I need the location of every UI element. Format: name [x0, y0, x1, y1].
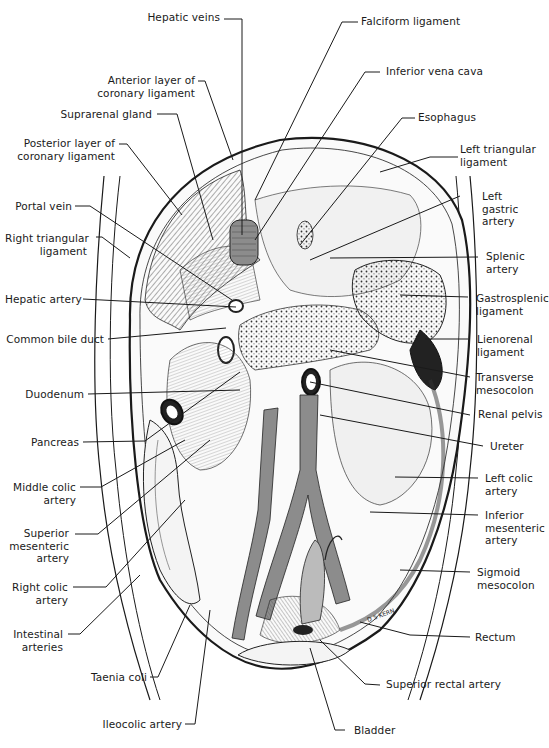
label-hepatic-artery: Hepatic artery: [5, 293, 79, 306]
label-lienorenal-ligament: Lienorenal ligament: [477, 333, 533, 358]
label-anterior-layer-coronary-ligament: Anterior layer of coronary ligament: [80, 74, 195, 99]
label-bladder: Bladder: [354, 724, 395, 737]
label-left-gastric-artery: Left gastric artery: [482, 190, 518, 228]
label-common-bile-duct: Common bile duct: [5, 333, 104, 346]
label-ureter: Ureter: [490, 440, 524, 453]
label-rectum: Rectum: [475, 631, 516, 644]
inferior-vena-cava-shape: [230, 220, 258, 265]
esophagus-stump: [297, 221, 313, 249]
leader-intestinal-arteries: [68, 575, 140, 634]
label-sigmoid-mesocolon: Sigmoid mesocolon: [477, 566, 535, 591]
label-ileocolic-artery: Ileocolic artery: [80, 718, 182, 731]
label-superior-rectal-artery: Superior rectal artery: [386, 678, 501, 691]
label-right-triangular-ligament: Right triangular ligament: [5, 232, 87, 257]
label-right-colic-artery: Right colic artery: [5, 581, 68, 606]
leader-anterior-coronary: [198, 81, 233, 160]
label-inferior-mesenteric-artery: Inferior mesenteric artery: [485, 509, 545, 547]
label-esophagus: Esophagus: [418, 111, 476, 124]
label-gastrosplenic-ligament: Gastrosplenic ligament: [476, 292, 549, 317]
label-falciform-ligament: Falciform ligament: [361, 15, 460, 28]
label-middle-colic-artery: Middle colic artery: [5, 481, 76, 506]
label-duodenum: Duodenum: [5, 388, 84, 401]
label-posterior-layer-coronary-ligament: Posterior layer of coronary ligament: [5, 137, 115, 162]
label-transverse-mesocolon: Transverse mesocolon: [476, 371, 534, 396]
label-inferior-vena-cava: Inferior vena cava: [386, 65, 483, 78]
label-renal-pelvis: Renal pelvis: [478, 408, 542, 421]
label-left-triangular-ligament: Left triangular ligament: [460, 143, 536, 168]
portal-vein-node: [229, 300, 243, 312]
label-hepatic-veins: Hepatic veins: [120, 11, 220, 24]
rectum-lumen: [293, 625, 313, 635]
label-suprarenal-gland: Suprarenal gland: [40, 108, 152, 121]
label-splenic-artery: Splenic artery: [486, 250, 525, 275]
label-left-colic-artery: Left colic artery: [485, 472, 533, 497]
label-pancreas: Pancreas: [5, 436, 79, 449]
label-portal-vein: Portal vein: [5, 200, 72, 213]
label-taenia-coli: Taenia coli: [70, 671, 147, 684]
label-intestinal-arteries: Intestinal arteries: [5, 628, 63, 653]
label-superior-mesenteric-artery: Superior mesenteric artery: [5, 527, 69, 565]
